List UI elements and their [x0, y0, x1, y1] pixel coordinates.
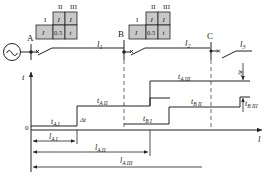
relay-B-header-III: III [163, 3, 171, 11]
distance-axis: l [31, 130, 262, 144]
time-axis: t 0 [22, 72, 31, 172]
reach-lA1: lA I [33, 130, 77, 144]
protection-coordination-diagram: A B C l1 l2 l3 II III I I I I 0.5 t II I… [0, 0, 268, 182]
transmission-line [31, 48, 252, 58]
section-l2-label: l2 [185, 38, 191, 49]
relay-A-cell: 0.5 [54, 29, 62, 36]
tB1-label: tB I [143, 114, 153, 124]
relay-B-cell: 0.5 [147, 29, 155, 36]
reach-lA3: lA III [33, 156, 202, 167]
t-axis-label: t [22, 72, 25, 82]
relay-B-header-II: II [151, 3, 156, 11]
tA1-label: tA I [51, 117, 61, 127]
tA3-label: tA III [178, 72, 192, 82]
origin-label: 0 [25, 124, 29, 132]
relay-B-header-I: I [136, 16, 139, 24]
tA2-label: tA II [97, 96, 109, 106]
section-l3-label: l3 [240, 39, 246, 50]
svg-text:lA II: lA II [95, 143, 107, 153]
relay-A-header-II: II [58, 3, 63, 11]
bus-B: B [118, 29, 126, 128]
relay-A-header-I: I [44, 16, 47, 24]
bus-A-label: A [27, 33, 34, 43]
svg-text:lA III: lA III [120, 156, 134, 166]
delta-t-label: Δt [79, 116, 87, 124]
l-axis-label: l [258, 134, 261, 144]
section-l1-label: l1 [97, 39, 103, 50]
bus-C-label: C [207, 31, 213, 41]
relay-A-header-III: III [70, 3, 78, 11]
bus-A: A [27, 33, 34, 60]
relay-table-A: II III I I I I 0.5 t [36, 3, 78, 39]
bus-B-label: B [118, 29, 124, 39]
svg-text:lA I: lA I [49, 132, 59, 142]
tB3-label: tB III [245, 99, 259, 109]
ac-source-icon [4, 44, 21, 61]
delta-t-label: Δt [236, 69, 244, 77]
tB2-label: tB II [191, 97, 203, 107]
relay-table-B: II III I I I I 0.5 t [129, 3, 171, 39]
